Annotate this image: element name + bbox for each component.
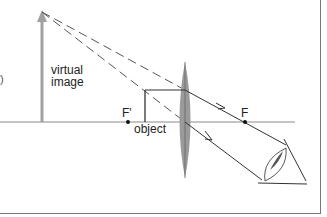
focal-point-far [243,120,247,124]
virtual-image-arrowhead [37,10,47,22]
magnifier-ray-diagram [0,0,327,217]
ray-arrow-2 [205,131,212,140]
eye-icon [258,139,307,184]
ray-through-focus [185,90,286,145]
focal-far-label: F [241,107,248,119]
virtual-image-label: virtual image [51,64,84,88]
ray-through-center [185,122,262,180]
object-label: object [134,123,166,135]
edge-paren-label: ) [0,73,4,85]
focal-point-near [126,120,130,124]
focal-near-label: F' [122,107,132,119]
virtual-image-label-line2: image [51,76,84,88]
